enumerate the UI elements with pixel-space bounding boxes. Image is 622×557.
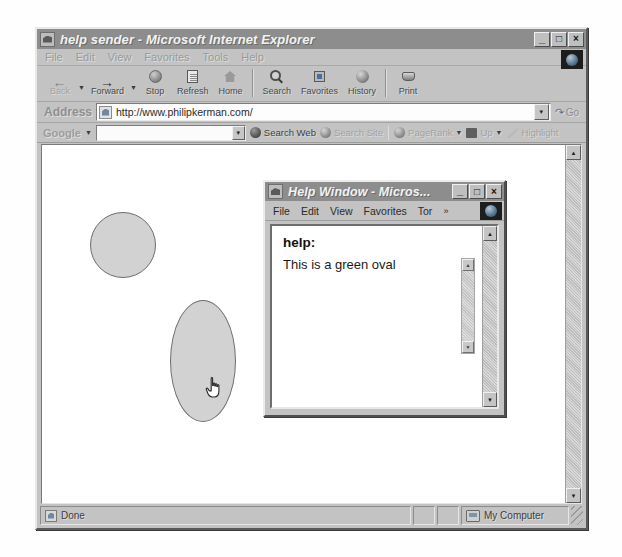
help-minimize-button[interactable]: _: [452, 184, 468, 199]
resize-grip[interactable]: [571, 506, 583, 525]
menu-view[interactable]: View: [108, 51, 132, 63]
toolbar-refresh-button[interactable]: Refresh: [172, 68, 214, 96]
magnifier-icon: [268, 69, 285, 85]
google-search-web-button[interactable]: Search Web: [250, 127, 316, 138]
help-menu-view[interactable]: View: [330, 205, 353, 217]
stop-icon: [147, 69, 164, 85]
help-menu-bar: File Edit View Favorites Tor »: [265, 201, 504, 221]
menu-file[interactable]: File: [45, 51, 63, 63]
page-icon: [99, 106, 112, 119]
status-pane-spacer-2: [437, 506, 459, 525]
status-pane-spacer-1: [413, 506, 435, 525]
toolbar-print-button[interactable]: Print: [391, 68, 425, 96]
help-menu-favorites[interactable]: Favorites: [364, 205, 407, 217]
scroll-track[interactable]: [566, 160, 581, 488]
address-bar: Address http://www.philipkerman.com/ ▼ ↷…: [37, 102, 586, 123]
security-zone-pane[interactable]: My Computer: [461, 506, 569, 525]
help-scroll-track[interactable]: [483, 241, 497, 392]
google-search-input[interactable]: ▼: [96, 125, 246, 141]
google-pagerank-button[interactable]: PageRank ▼: [394, 127, 462, 138]
help-window-title: Help Window - Micros...: [288, 185, 452, 199]
menu-tools[interactable]: Tools: [203, 51, 229, 63]
main-menu-bar: File Edit View Favorites Tools Help: [37, 49, 586, 66]
help-scroll-down-arrow-icon[interactable]: ▼: [483, 392, 497, 407]
toolbar-back-button[interactable]: Back: [43, 68, 77, 96]
google-separator: [388, 126, 389, 140]
menu-help[interactable]: Help: [241, 51, 264, 63]
go-label: Go: [566, 107, 579, 118]
help-menu-file[interactable]: File: [273, 205, 290, 217]
help-inner-scrollbar[interactable]: ▲ ▼: [461, 258, 475, 354]
toolbar-search-button[interactable]: Search: [258, 68, 297, 96]
minimize-button[interactable]: _: [534, 32, 550, 47]
pagerank-chevron-down-icon[interactable]: ▼: [455, 129, 462, 136]
back-dropdown-chevron-down-icon[interactable]: ▼: [77, 84, 86, 91]
toolbar-home-button[interactable]: Home: [214, 68, 248, 96]
toolbar-separator: [252, 69, 254, 97]
help-heading: help:: [283, 235, 457, 251]
help-scroll-up-arrow-icon[interactable]: ▲: [483, 226, 497, 241]
printer-icon: [400, 69, 417, 85]
forward-arrow-icon: [99, 69, 116, 85]
go-arrow-icon: ↷: [555, 106, 564, 119]
up-chevron-down-icon[interactable]: ▼: [496, 129, 503, 136]
help-window-titlebar[interactable]: Help Window - Micros... _ □ ×: [265, 182, 504, 201]
menu-edit[interactable]: Edit: [76, 51, 95, 63]
main-window-vertical-scrollbar[interactable]: ▲ ▼: [565, 145, 581, 503]
favorites-star-icon: [311, 69, 328, 85]
help-window-controls: _ □ ×: [452, 184, 502, 199]
help-close-button[interactable]: ×: [486, 184, 502, 199]
address-chevron-down-icon[interactable]: ▼: [534, 104, 549, 120]
security-zone-label: My Computer: [484, 510, 544, 521]
google-logo: Google: [43, 127, 81, 139]
google-search-site-button[interactable]: Search Site: [320, 127, 383, 138]
toolbar-stop-button[interactable]: Stop: [138, 68, 172, 96]
help-body-text: This is a green oval: [283, 257, 457, 273]
scroll-up-arrow-icon[interactable]: ▲: [566, 145, 581, 160]
help-maximize-button[interactable]: □: [469, 184, 485, 199]
help-menu-overflow-chevron-icon[interactable]: »: [443, 206, 448, 216]
ie-animated-logo-icon: [561, 50, 583, 69]
toolbar-forward-button[interactable]: Forward: [86, 68, 129, 96]
google-chevron-down-icon[interactable]: ▼: [85, 129, 92, 136]
main-window-controls: _ □ ×: [534, 32, 584, 47]
google-up-button[interactable]: Up ▼: [466, 127, 502, 138]
toolbar-history-button[interactable]: History: [343, 68, 381, 96]
help-text-block: help: This is a green oval: [283, 235, 457, 273]
pagerank-icon: [394, 127, 405, 138]
scroll-down-arrow-icon[interactable]: ▼: [566, 488, 581, 503]
address-input[interactable]: http://www.philipkerman.com/ ▼: [96, 103, 551, 121]
help-menu-tools[interactable]: Tor: [418, 205, 433, 217]
address-url-text: http://www.philipkerman.com/: [116, 106, 534, 118]
toolbar-favorites-button[interactable]: Favorites: [296, 68, 343, 96]
pointing-hand-cursor: [205, 377, 222, 398]
help-popup-window: Help Window - Micros... _ □ × File Edit …: [263, 180, 506, 417]
main-status-bar: Done My Computer: [40, 506, 583, 525]
help-menu-edit[interactable]: Edit: [301, 205, 319, 217]
gray-circle-shape[interactable]: [90, 212, 156, 278]
status-message: Done: [61, 510, 85, 521]
menu-favorites[interactable]: Favorites: [144, 51, 189, 63]
status-message-pane: Done: [40, 506, 411, 525]
close-button[interactable]: ×: [568, 32, 584, 47]
google-search-chevron-down-icon[interactable]: ▼: [232, 126, 245, 140]
maximize-button[interactable]: □: [551, 32, 567, 47]
binoculars-icon: [250, 127, 261, 138]
page-icon: [45, 510, 57, 522]
inner-scroll-up-arrow-icon[interactable]: ▲: [462, 259, 474, 271]
address-label: Address: [44, 105, 92, 119]
ie-page-icon: [268, 184, 283, 199]
main-window-title: help sender - Microsoft Internet Explore…: [60, 32, 534, 47]
folder-up-icon: [466, 128, 477, 138]
inner-scroll-down-arrow-icon[interactable]: ▼: [462, 341, 474, 353]
google-highlight-button[interactable]: Highlight: [506, 127, 558, 138]
go-button[interactable]: ↷ Go: [555, 106, 582, 119]
help-window-vertical-scrollbar[interactable]: ▲ ▼: [482, 226, 497, 407]
forward-dropdown-chevron-down-icon[interactable]: ▼: [129, 84, 138, 91]
globe-icon: [320, 127, 331, 138]
gray-tall-oval-shape[interactable]: [170, 300, 236, 422]
main-window-titlebar[interactable]: help sender - Microsoft Internet Explore…: [37, 29, 586, 49]
help-content-area: help: This is a green oval ▲ ▼ ▲ ▼: [270, 224, 499, 409]
back-arrow-icon: [52, 69, 69, 85]
my-computer-icon: [466, 510, 480, 522]
